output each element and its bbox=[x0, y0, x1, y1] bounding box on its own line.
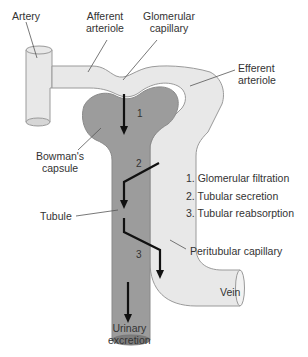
bowmans-line-1: Bowman's bbox=[36, 150, 84, 162]
urinary-excretion-label: Urinary excretion bbox=[108, 322, 151, 346]
afferent-line-2: arteriole bbox=[86, 22, 124, 34]
arrow-number-3: 3 bbox=[136, 249, 142, 260]
arrow-number-1: 1 bbox=[137, 108, 143, 119]
efferent-line-1: Efferent bbox=[238, 62, 276, 74]
tubule-label: Tubule bbox=[40, 210, 72, 222]
vein-label: Vein bbox=[220, 286, 240, 298]
efferent-arteriole-label: Efferent arteriole bbox=[238, 62, 276, 86]
arrow-number-2: 2 bbox=[136, 158, 142, 169]
peritubular-capillary-label: Peritubular capillary bbox=[190, 245, 282, 257]
efferent-line-2: arteriole bbox=[238, 74, 276, 86]
bowmans-capsule-label: Bowman's capsule bbox=[36, 150, 84, 174]
glomerular-line-1: Glomerular bbox=[143, 10, 195, 22]
artery-vessel bbox=[26, 46, 52, 126]
urinary-line-2: excretion bbox=[108, 334, 151, 346]
urinary-line-1: Urinary bbox=[108, 322, 151, 334]
legend-item-reabsorption: 3. Tubular reabsorption bbox=[186, 205, 294, 223]
afferent-line-1: Afferent bbox=[86, 10, 124, 22]
afferent-arteriole-label: Afferent arteriole bbox=[86, 10, 124, 34]
process-legend: 1. Glomerular filtration 2. Tubular secr… bbox=[186, 170, 294, 223]
bowmans-line-2: capsule bbox=[36, 162, 84, 174]
legend-item-filtration: 1. Glomerular filtration bbox=[186, 170, 294, 188]
legend-item-secretion: 2. Tubular secretion bbox=[186, 188, 294, 206]
artery-label: Artery bbox=[12, 10, 40, 22]
glomerular-capillary-label: Glomerular capillary bbox=[143, 10, 195, 34]
glomerular-line-2: capillary bbox=[143, 22, 195, 34]
